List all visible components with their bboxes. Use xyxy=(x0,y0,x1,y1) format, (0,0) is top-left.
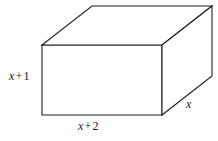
rectangular-prism-drawing xyxy=(0,0,218,141)
height-operator: + xyxy=(15,69,24,83)
width-constant: 2 xyxy=(93,119,99,133)
height-constant: 1 xyxy=(24,69,30,83)
depth-variable: x xyxy=(186,97,192,111)
width-variable: x xyxy=(78,119,84,133)
dimension-label-width: x+2 xyxy=(78,120,99,132)
dimension-label-depth: x xyxy=(186,98,192,110)
width-operator: + xyxy=(84,119,93,133)
height-variable: x xyxy=(9,69,15,83)
prism-front-face xyxy=(42,45,162,115)
dimension-label-height: x+1 xyxy=(9,70,30,82)
prism-figure: x+1 x+2 x xyxy=(0,0,218,141)
